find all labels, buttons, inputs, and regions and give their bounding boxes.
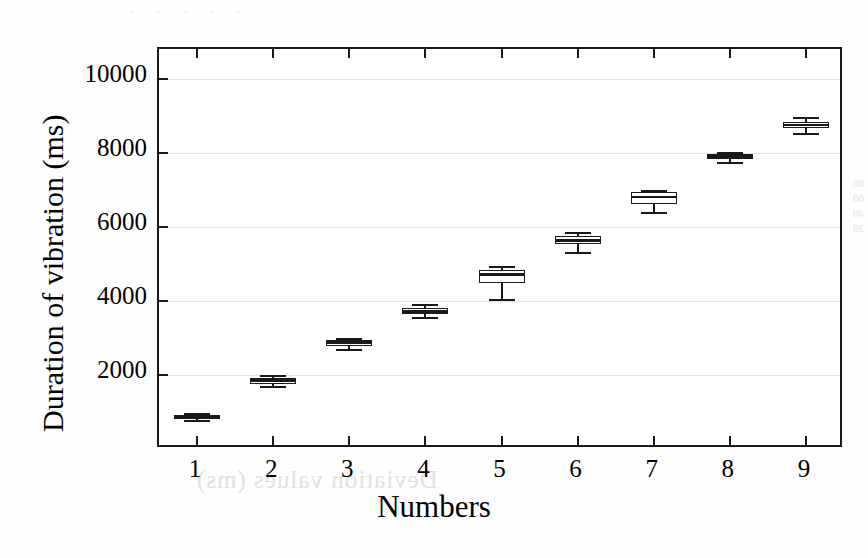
- x-axis-tick: [805, 436, 807, 445]
- whisker-cap-lower: [565, 252, 591, 254]
- median-line: [555, 239, 601, 242]
- plot-area: [157, 47, 842, 447]
- y-axis-tick-label: 10000: [0, 60, 147, 88]
- y-axis-tick: [159, 226, 168, 228]
- x-axis-tick-label: 8: [708, 455, 748, 483]
- whisker-cap-lower: [336, 349, 362, 351]
- x-axis-tick-top: [577, 49, 579, 58]
- whisker-lower: [653, 204, 655, 212]
- scan-bleed-top: - - - - -: [120, 4, 239, 16]
- plot-inner: [159, 49, 840, 445]
- x-axis-tick-label: 4: [403, 455, 443, 483]
- x-axis-tick-label: 9: [784, 455, 824, 483]
- x-axis-title: Numbers: [0, 489, 868, 525]
- median-line: [631, 196, 677, 199]
- y-axis-tick: [159, 152, 168, 154]
- whisker-cap-upper: [565, 232, 591, 234]
- gridline-y: [159, 227, 840, 228]
- whisker-cap-upper: [412, 304, 438, 306]
- x-axis-tick-top: [272, 49, 274, 58]
- median-line: [250, 379, 296, 382]
- whisker-cap-lower: [793, 133, 819, 135]
- x-axis-tick-top: [729, 49, 731, 58]
- y-axis-tick-label: 2000: [0, 356, 147, 384]
- x-axis-tick: [501, 436, 503, 445]
- x-axis-tick: [577, 436, 579, 445]
- y-axis-tick-label: 8000: [0, 134, 147, 162]
- whisker-cap-lower: [717, 162, 743, 164]
- x-axis-tick-top: [653, 49, 655, 58]
- scan-bleed-right: 80 60 40 20: [853, 176, 864, 236]
- gridline-y: [159, 79, 840, 80]
- x-axis-tick-top: [424, 49, 426, 58]
- whisker-cap-upper: [489, 266, 515, 268]
- x-axis-tick-top: [805, 49, 807, 58]
- x-axis-tick-label: 2: [251, 455, 291, 483]
- x-axis-tick-label: 7: [632, 455, 672, 483]
- whisker-cap-lower: [260, 386, 286, 388]
- median-line: [402, 310, 448, 313]
- median-line: [479, 273, 525, 276]
- whisker-cap-lower: [641, 212, 667, 214]
- median-line: [707, 155, 753, 158]
- median-line: [783, 124, 829, 127]
- x-axis-tick: [348, 436, 350, 445]
- whisker-lower: [577, 244, 579, 252]
- gridline-y: [159, 301, 840, 302]
- y-axis-tick: [159, 300, 168, 302]
- x-axis-tick-top: [196, 49, 198, 58]
- x-axis-tick-top: [501, 49, 503, 58]
- x-axis-tick: [653, 436, 655, 445]
- box-iqr: [479, 270, 525, 283]
- whisker-cap-lower: [489, 299, 515, 301]
- x-axis-tick-label: 3: [327, 455, 367, 483]
- x-axis-tick: [272, 436, 274, 445]
- whisker-cap-lower: [412, 317, 438, 319]
- whisker-lower: [501, 283, 503, 299]
- whisker-cap-upper: [793, 117, 819, 119]
- x-axis-tick: [196, 436, 198, 445]
- y-axis-tick: [159, 78, 168, 80]
- y-axis-title: Duration of vibration (ms): [36, 115, 70, 432]
- x-axis-tick: [729, 436, 731, 445]
- median-line: [174, 415, 220, 418]
- x-axis-tick: [424, 436, 426, 445]
- median-line: [326, 341, 372, 344]
- y-axis-tick-label: 6000: [0, 208, 147, 236]
- x-axis-tick-top: [348, 49, 350, 58]
- y-axis-tick-label: 4000: [0, 282, 147, 310]
- x-axis-tick-label: 6: [556, 455, 596, 483]
- x-axis-tick-label: 5: [480, 455, 520, 483]
- whisker-cap-lower: [184, 420, 210, 422]
- figure-canvas: - - - - - Deviation values (ms) Duration…: [0, 0, 868, 558]
- y-axis-tick: [159, 374, 168, 376]
- x-axis-tick-label: 1: [175, 455, 215, 483]
